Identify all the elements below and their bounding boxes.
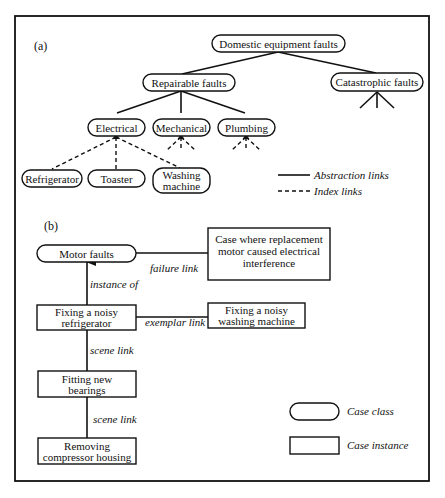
node-label: Refrigerator [25, 173, 79, 185]
node-refrigerator: Refrigerator [22, 170, 82, 187]
node-electrical: Electrical [88, 119, 145, 136]
node-removing-compressor-housing: Removing compressor housing [38, 438, 136, 464]
exemplar-link-label: exemplar link [145, 316, 206, 328]
node-label: Mechanical [156, 122, 207, 134]
panel-b-label: (b) [44, 219, 58, 233]
node-repairable-faults: Repairable faults [143, 74, 235, 91]
node-fixing-noisy-washing-machine: Fixing a noisy washing machine [208, 303, 305, 328]
scene-link-label-1: scene link [90, 344, 135, 356]
node-fixing-noisy-refrigerator: Fixing a noisy refrigerator [37, 305, 136, 330]
node-label: Motor faults [59, 248, 114, 260]
node-mechanical: Mechanical [153, 119, 210, 136]
node-label-line2: machine [163, 180, 200, 192]
diagram-canvas: (a) Domestic equipment faults Repa [0, 0, 445, 498]
index-edges [52, 135, 261, 169]
node-domestic-equipment-faults: Domestic equipment faults [212, 35, 345, 52]
node-label-line3: interference [243, 257, 296, 269]
node-catastrophic-faults: Catastrophic faults [331, 73, 423, 91]
legend-case-instance-label: Case instance [347, 439, 409, 451]
legend-case-types: Case class Case instance [290, 403, 409, 454]
node-label-line2: refrigerator [61, 317, 111, 329]
node-label: Catastrophic faults [336, 76, 419, 88]
node-plumbing: Plumbing [218, 119, 275, 136]
legend-case-class-label: Case class [347, 405, 394, 417]
case-instance-swatch [290, 437, 339, 454]
panel-a-label: (a) [34, 39, 47, 53]
node-label: Plumbing [225, 122, 268, 134]
node-label-line1: Case where replacement [215, 233, 323, 245]
instance-of-label: instance of [90, 278, 140, 290]
node-label-line2: bearings [68, 384, 105, 396]
failure-link-label: failure link [150, 262, 199, 274]
node-motor-faults: Motor faults [37, 245, 136, 262]
node-fitting-new-bearings: Fitting new bearings [38, 371, 136, 397]
case-class-swatch [290, 403, 339, 420]
node-toaster: Toaster [88, 170, 145, 187]
legend-abstraction-label: Abstraction links [313, 169, 389, 181]
node-label: Electrical [95, 122, 137, 134]
node-label: Toaster [100, 173, 133, 185]
node-label: Domestic equipment faults [219, 38, 338, 50]
node-label-line2: compressor housing [43, 451, 132, 463]
node-case-replacement-motor: Case where replacement motor caused elec… [208, 228, 330, 280]
node-label: Repairable faults [152, 77, 227, 89]
node-label-line2: motor caused electrical [218, 245, 320, 257]
legend-index-label: Index links [313, 185, 362, 197]
node-washing-machine: Washing machine [153, 168, 210, 193]
scene-link-label-2: scene link [93, 413, 138, 425]
legend-links: Abstraction links Index links [278, 169, 389, 197]
node-label-line2: washing machine [218, 315, 295, 327]
